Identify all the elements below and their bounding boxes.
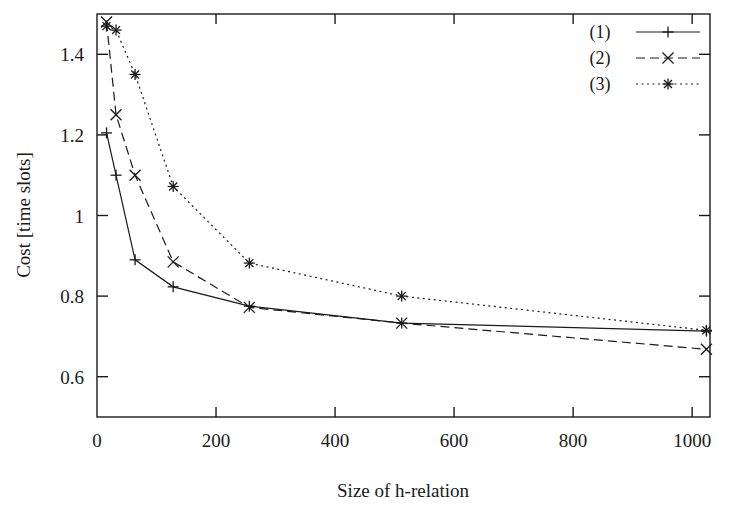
chart-legend: (1)(2)(3): [590, 22, 701, 95]
data-point-marker-plus: [168, 281, 179, 292]
data-point-marker-star: [663, 79, 674, 90]
data-point-marker-plus: [101, 127, 112, 138]
data-point-marker-star: [396, 291, 407, 302]
series-line: [107, 26, 707, 330]
data-point-marker-star: [168, 181, 179, 192]
y-axis-title: Cost [time slots]: [13, 152, 34, 278]
data-point-marker-plus: [111, 170, 122, 181]
data-point-marker-star: [244, 258, 255, 269]
plot-frame: [97, 14, 710, 417]
y-tick-label: 0.8: [60, 286, 84, 307]
data-point-marker-star: [101, 21, 112, 32]
series-line: [107, 22, 707, 349]
x-tick-label: 0: [92, 430, 102, 451]
data-point-marker-star: [701, 325, 712, 336]
plot-border: [97, 14, 710, 417]
series-2: [101, 17, 712, 355]
y-tick-label: 1.2: [60, 125, 84, 146]
x-axis-tick-labels: 02004006008001000: [92, 430, 711, 451]
data-point-marker-plus: [663, 27, 674, 38]
x-axis-title: Size of h-relation: [337, 480, 469, 501]
x-tick-label: 400: [321, 430, 350, 451]
data-point-marker-cross: [130, 170, 141, 181]
chart-figure: 0.60.811.21.4 02004006008001000 (1)(2)(3…: [0, 0, 745, 507]
series-3: [101, 21, 712, 336]
y-tick-label: 1.4: [60, 44, 84, 65]
data-point-marker-cross: [168, 256, 179, 267]
series-1: [101, 127, 712, 336]
legend-label-2: (2): [590, 48, 611, 69]
cost-vs-h-relation-line-chart: 0.60.811.21.4 02004006008001000 (1)(2)(3…: [0, 0, 745, 507]
data-series-group: [101, 17, 712, 355]
y-tick-label: 0.6: [60, 367, 84, 388]
y-axis-tick-labels: 0.60.811.21.4: [60, 44, 84, 387]
series-line: [107, 133, 707, 331]
x-axis-ticks: [216, 14, 692, 417]
data-point-marker-plus: [244, 301, 255, 312]
x-tick-label: 600: [440, 430, 469, 451]
x-tick-label: 800: [559, 430, 588, 451]
y-tick-label: 1: [75, 206, 85, 227]
legend-label-3: (3): [590, 74, 611, 95]
legend-label-1: (1): [590, 22, 611, 43]
x-tick-label: 1000: [673, 430, 711, 451]
data-point-marker-star: [111, 25, 122, 36]
data-point-marker-star: [130, 69, 141, 80]
x-tick-label: 200: [202, 430, 231, 451]
data-point-marker-plus: [130, 254, 141, 265]
